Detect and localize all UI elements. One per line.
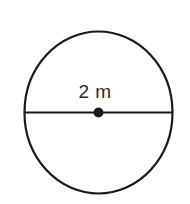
circle-diagram-figure: 2 m	[0, 0, 190, 204]
center-point-dot	[94, 108, 104, 118]
diameter-measurement-label: 2 m	[0, 81, 190, 103]
